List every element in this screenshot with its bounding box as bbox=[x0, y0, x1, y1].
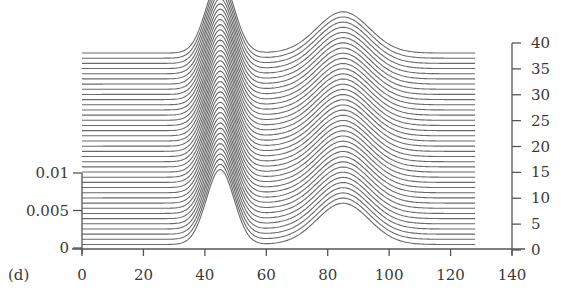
right-y-tick-label: 30 bbox=[531, 86, 550, 104]
left-y-tick-label: 0.005 bbox=[26, 202, 69, 220]
right-y-tick-label: 5 bbox=[531, 215, 541, 233]
right-y-tick-label: 35 bbox=[531, 60, 550, 78]
x-tick-label: 100 bbox=[375, 266, 404, 284]
x-tick-label: 0 bbox=[77, 266, 87, 284]
x-tick-label: 120 bbox=[436, 266, 465, 284]
trace-line bbox=[82, 0, 475, 53]
trace-stack bbox=[82, 0, 475, 249]
right-y-tick-label: 40 bbox=[531, 34, 550, 52]
waterfall-chart: 02040608010012014000.0050.01051015202530… bbox=[0, 0, 561, 298]
trace-line bbox=[82, 0, 475, 58]
x-tick-label: 140 bbox=[498, 266, 527, 284]
left-y-tick-label: 0.01 bbox=[36, 164, 69, 182]
x-tick-label: 60 bbox=[257, 266, 276, 284]
right-y-tick-label: 25 bbox=[531, 112, 550, 130]
x-tick-label: 40 bbox=[195, 266, 214, 284]
right-y-tick-label: 10 bbox=[531, 189, 550, 207]
x-tick-label: 20 bbox=[134, 266, 153, 284]
right-y-tick-label: 20 bbox=[531, 138, 550, 156]
right-y-tick-label: 0 bbox=[531, 241, 541, 259]
right-y-tick-label: 15 bbox=[531, 163, 550, 181]
panel-label: (d) bbox=[8, 266, 29, 284]
x-tick-label: 80 bbox=[318, 266, 337, 284]
left-y-tick-label: 0 bbox=[59, 239, 69, 257]
